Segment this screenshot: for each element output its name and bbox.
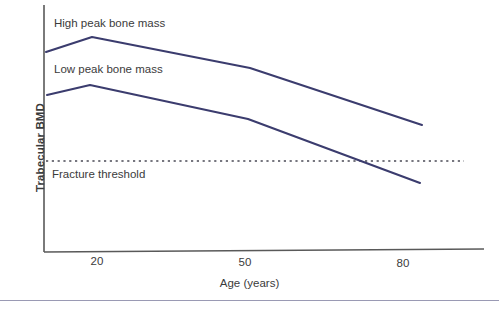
x-tick-label-50: 50 <box>225 256 265 268</box>
fracture-threshold-label: Fracture threshold <box>52 168 145 180</box>
high-peak-bone-mass-curve <box>46 37 422 125</box>
high-peak-bone-mass-label: High peak bone mass <box>54 17 165 29</box>
x-tick-label-80: 80 <box>383 257 423 269</box>
x-axis-label: Age (years) <box>0 277 499 289</box>
x-axis-line <box>44 249 484 252</box>
low-peak-bone-mass-label: Low peak bone mass <box>54 63 163 75</box>
chart-figure: Trabecular BMD High peak bone mass Low p… <box>0 0 499 309</box>
bottom-divider <box>0 300 499 301</box>
y-axis-label: Trabecular BMD <box>34 0 46 192</box>
x-tick-label-20: 20 <box>77 255 117 267</box>
